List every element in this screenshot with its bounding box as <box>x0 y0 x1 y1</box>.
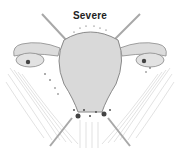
uterosacral-ligaments <box>50 118 130 146</box>
uterus-illustration <box>0 0 180 149</box>
uterus-body <box>59 32 122 112</box>
